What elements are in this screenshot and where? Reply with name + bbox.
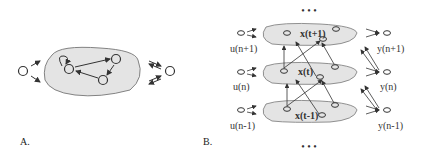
ellipsis-top: • • • bbox=[301, 5, 317, 16]
ellipsis-bottom: • • • bbox=[301, 141, 317, 152]
diagram-canvas: A. • • • • • • x(t+1) x(t) x(t-1) bbox=[0, 0, 424, 156]
state-label-top: x(t+1) bbox=[300, 28, 326, 40]
output-label-n-minus-1: y(n-1) bbox=[378, 120, 403, 132]
input-arrow bbox=[31, 61, 40, 66]
output-label-n-plus-1: y(n+1) bbox=[377, 43, 404, 55]
input-label-n-minus-1: u(n-1) bbox=[230, 120, 255, 132]
input-label-n: u(n) bbox=[233, 81, 250, 93]
input-label-n-plus-1: u(n+1) bbox=[230, 43, 257, 55]
panel-a-diagram bbox=[19, 47, 175, 96]
panel-a-label: A. bbox=[20, 136, 30, 147]
reservoir-blob bbox=[44, 47, 140, 96]
input-node bbox=[19, 67, 28, 76]
output-node bbox=[166, 67, 175, 76]
input-arrow bbox=[31, 76, 40, 82]
state-label-bot: x(t-1) bbox=[295, 110, 318, 122]
output-label-n: y(n) bbox=[380, 81, 397, 93]
panel-b-label: B. bbox=[203, 136, 212, 147]
panel-b-diagram: • • • • • • x(t+1) x(t) x(t-1) bbox=[230, 5, 404, 152]
